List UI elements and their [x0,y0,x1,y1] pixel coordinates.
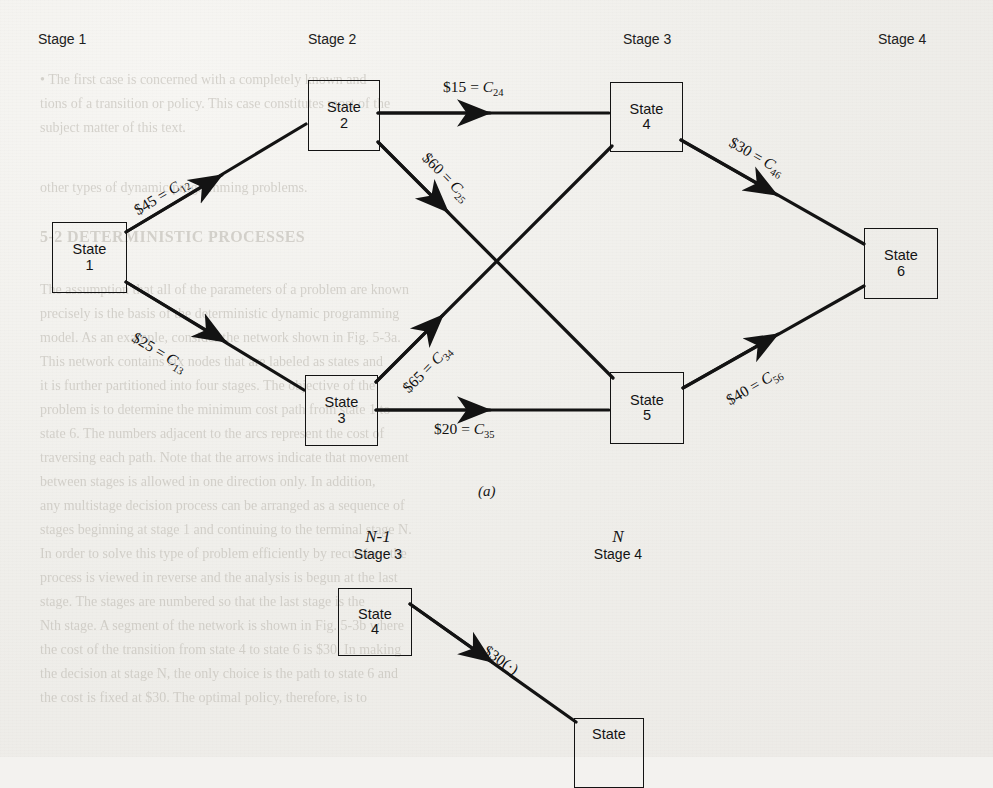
node-b-state-4-word: State [358,607,392,622]
node-state-3[interactable]: State 3 [305,375,378,446]
node-state-4-number: 4 [642,117,650,132]
node-state-2[interactable]: State 2 [308,80,380,151]
node-state-6[interactable]: State 6 [864,228,938,299]
stage-header-b-n: N Stage 4 [570,527,666,562]
node-state-6-number: 6 [897,264,905,279]
edge-label-24: $15 = C24 [443,78,504,98]
stage-header-4: Stage 4 [878,31,926,47]
stage-header-b-n-1-n: N-1 [365,527,391,546]
node-b-state-6-word: State [592,727,626,742]
node-state-4[interactable]: State 4 [610,82,683,152]
node-b-state-4-number: 4 [371,622,379,637]
stage-header-b-n-label: Stage 4 [570,546,666,562]
node-state-4-word: State [630,102,664,117]
node-state-1-word: State [73,242,107,257]
stage-header-b-n-1: N-1 Stage 3 [330,527,426,562]
node-state-2-word: State [327,100,361,115]
stage-header-1: Stage 1 [38,31,86,47]
node-b-state-4[interactable]: State 4 [338,588,412,656]
node-state-5-number: 5 [643,408,651,423]
node-state-5[interactable]: State 5 [610,372,684,444]
node-state-1[interactable]: State 1 [52,222,127,293]
figure-a-caption: (a) [478,483,496,500]
stage-header-3: Stage 3 [623,31,671,47]
node-state-5-word: State [630,393,664,408]
stage-header-2: Stage 2 [308,31,356,47]
edge-4b-6b-arrow [410,604,492,662]
edge-label-35: $20 = C35 [434,420,495,440]
node-state-3-number: 3 [337,411,345,426]
node-state-6-word: State [884,248,918,263]
node-b-state-6[interactable]: State [574,718,644,788]
node-state-2-number: 2 [340,116,348,131]
node-state-1-number: 1 [85,258,93,273]
stage-header-b-n-n: N [612,527,623,546]
stage-header-b-n-1-label: Stage 3 [330,546,426,562]
node-state-3-word: State [325,395,359,410]
